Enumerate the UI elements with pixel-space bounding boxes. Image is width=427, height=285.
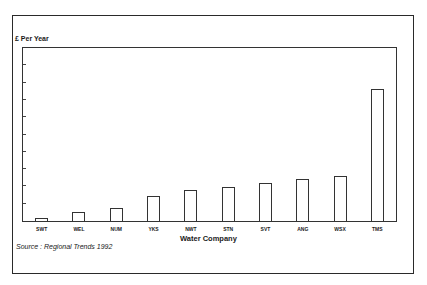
category-label: STN [213,226,243,232]
bar-svt [259,183,272,221]
y-tick [23,185,26,186]
y-axis-label: £ Per Year [15,35,49,42]
bar-num [110,208,123,221]
x-axis-label: Water Company [180,234,237,243]
category-label: YKS [139,226,169,232]
source-note: Source : Regional Trends 1992 [16,243,112,250]
y-tick [23,134,26,135]
y-tick [23,99,26,100]
y-tick [23,203,26,204]
bar-ang [296,179,309,221]
bar-stn [222,187,235,221]
category-label: WEL [64,226,94,232]
category-label: WSX [325,226,355,232]
category-label: ANG [288,226,318,232]
category-label: SWT [27,226,57,232]
plot-area [22,47,397,222]
category-label: NWT [176,226,206,232]
bar-yks [147,196,160,221]
bar-tms [371,89,384,221]
bar-wsx [334,176,347,221]
bar-wel [72,212,85,221]
category-label: NUM [101,226,131,232]
y-tick [23,116,26,117]
y-tick [23,64,26,65]
y-tick [23,151,26,152]
category-label: SVT [250,226,280,232]
y-tick [23,168,26,169]
category-label: TMS [362,226,392,232]
y-tick [23,82,26,83]
bar-swt [35,218,48,221]
bar-nwt [184,190,197,221]
